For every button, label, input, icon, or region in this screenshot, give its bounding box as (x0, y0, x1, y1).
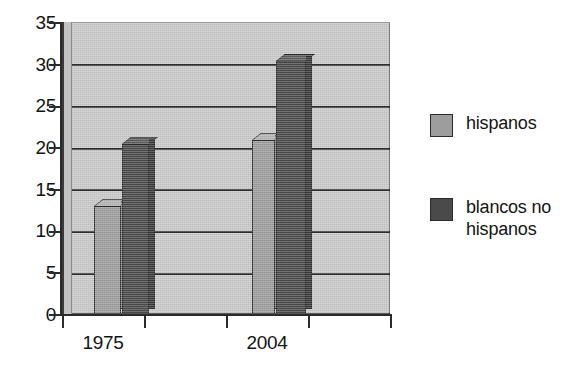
x-axis-tick-mark (226, 314, 228, 328)
plot-face (72, 22, 390, 314)
x-axis-tick-label-2004: 2004 (222, 332, 312, 354)
bar-front-face (276, 61, 306, 314)
y-axis-tick-mark (49, 22, 61, 24)
x-axis-tick-label-1975: 1975 (58, 332, 148, 354)
bar-chart-figure: 35 30 25 20 15 10 5 0 (0, 0, 587, 371)
x-axis-tick-mark (308, 314, 310, 328)
bar-hispanos-1975 (94, 206, 121, 314)
gridline-25 (72, 106, 390, 108)
plot-area (62, 22, 390, 314)
bar-front-face (94, 206, 121, 314)
y-axis-tick-mark (49, 106, 61, 108)
legend-label-blancos-no-hispanos: blancos no hispanos (466, 196, 551, 240)
y-axis-tick-mark (49, 189, 61, 191)
bar-side-face (306, 56, 312, 309)
plot-left-wall (62, 22, 72, 314)
legend-label-hispanos: hispanos (466, 112, 536, 134)
gridline-20 (72, 148, 390, 150)
bar-blancos-no-hispanos-2004 (276, 61, 306, 314)
legend-swatch-hispanos (430, 114, 453, 137)
bar-blancos-no-hispanos-1975 (122, 144, 149, 314)
x-axis-tick-mark (144, 314, 146, 328)
y-axis-tick-mark (49, 231, 61, 233)
y-axis-tick-mark (49, 272, 61, 274)
legend-swatch-blancos-no-hispanos (430, 198, 453, 221)
y-axis-tick-mark (49, 64, 61, 66)
gridline-15 (72, 189, 390, 191)
y-axis-tick-mark (49, 147, 61, 149)
x-axis-tick-mark (390, 314, 392, 328)
bar-hispanos-2004 (252, 140, 275, 314)
gridline-30 (72, 64, 390, 66)
legend-item-blancos-no-hispanos: blancos no hispanos (430, 196, 551, 240)
x-axis-tick-mark (62, 314, 64, 328)
bar-side-face (149, 139, 155, 309)
bar-front-face (252, 140, 275, 314)
bar-front-face (122, 144, 149, 314)
legend-item-hispanos: hispanos (430, 112, 536, 137)
